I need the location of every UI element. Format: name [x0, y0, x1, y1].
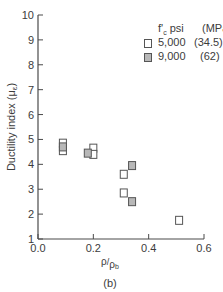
gray-square-point — [129, 198, 136, 206]
gray-square-marker-icon — [144, 53, 152, 62]
y-tick-label: 7 — [28, 84, 34, 96]
ductility-scatter-chart: 123456789100.00.20.40.6 Ductility index … — [0, 0, 223, 292]
legend-5000-mpa: (34.5) — [194, 36, 223, 48]
y-axis-label: Ductility index (με) — [5, 83, 19, 171]
y-tick-label: 5 — [28, 133, 34, 145]
legend-mpa-label: (MPa) — [202, 22, 223, 34]
x-tick-label: 0.6 — [196, 242, 211, 254]
open-square-point — [120, 189, 127, 197]
gray-square-point — [129, 162, 136, 170]
y-tick-label: 3 — [28, 183, 34, 195]
figure-caption: (b) — [103, 277, 116, 289]
y-tick-label: 8 — [28, 59, 34, 71]
data-points — [59, 139, 182, 224]
legend-5000-psi: 5,000 — [158, 36, 186, 48]
gray-square-point — [84, 149, 91, 157]
x-tick-label: 0.4 — [141, 242, 156, 254]
open-square-point — [176, 216, 183, 224]
x-tick-label: 0.2 — [86, 242, 101, 254]
y-tick-label: 10 — [22, 9, 34, 21]
open-square-point — [120, 170, 127, 178]
x-axis-label: ρ/ρb — [101, 256, 119, 270]
legend-header: f'c psi (MPa) — [158, 22, 184, 36]
y-tick-label: 9 — [28, 34, 34, 46]
open-square-marker-icon — [144, 39, 152, 48]
y-tick-label: 4 — [28, 158, 34, 170]
x-tick-label: 0.0 — [30, 242, 45, 254]
y-tick-label: 6 — [28, 109, 34, 121]
legend-9000-psi: 9,000 — [158, 50, 186, 62]
legend-9000-mpa: (62) — [200, 50, 220, 62]
y-tick-label: 2 — [28, 208, 34, 220]
legend-fc-label: f'c psi — [158, 22, 184, 34]
gray-square-point — [59, 143, 66, 151]
